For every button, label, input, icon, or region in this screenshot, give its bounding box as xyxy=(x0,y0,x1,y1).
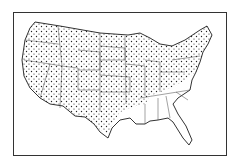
us-map xyxy=(0,0,239,167)
